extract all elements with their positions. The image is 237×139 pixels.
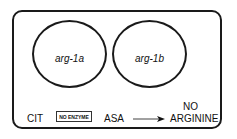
region-arg-1a: arg-1a bbox=[32, 20, 107, 88]
intermediate-label: ASA bbox=[104, 113, 124, 124]
enzyme-box: NO ENZYME bbox=[56, 111, 92, 122]
substrate-label: CIT bbox=[27, 113, 43, 124]
arrow-right-icon bbox=[133, 116, 165, 122]
region-label: arg-1b bbox=[135, 53, 164, 64]
region-arg-1b: arg-1b bbox=[112, 20, 187, 88]
product-label-line1: NO bbox=[183, 101, 198, 112]
product-label-line2: ARGININE bbox=[170, 113, 218, 124]
region-label: arg-1a bbox=[55, 53, 84, 64]
